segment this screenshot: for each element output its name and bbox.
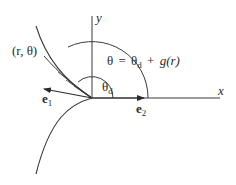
e1-label: e1 <box>42 91 52 108</box>
equation-label: θ = θd + g(r) <box>107 53 180 71</box>
e2-label: e2 <box>136 101 146 118</box>
diagram-canvas: y x (r, θ) θ = θd + g(r) θd e1 e2 <box>0 0 236 185</box>
inner-curve <box>44 56 92 98</box>
x-axis-label: x <box>217 83 224 98</box>
point-label: (r, θ) <box>12 43 37 58</box>
y-axis-label: y <box>94 10 102 25</box>
theta-d-label: θd <box>102 79 113 96</box>
spiral-curve <box>36 26 92 98</box>
lower-curve <box>36 98 92 174</box>
